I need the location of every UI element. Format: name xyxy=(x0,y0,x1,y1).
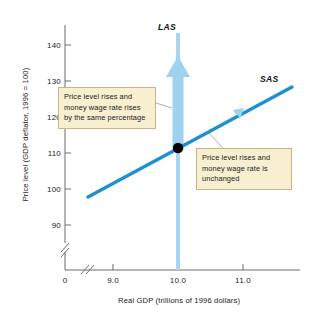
y-tick-140: 140 xyxy=(37,41,61,50)
x-tick-0: 0 xyxy=(50,276,80,285)
economics-as-chart: 140 130 120 110 100 90 0 9.0 10.0 11.0 P… xyxy=(0,0,310,316)
sas-callout-line-2: money wage rate is xyxy=(202,164,286,175)
equilibrium-point xyxy=(173,143,183,153)
y-axis-ticks xyxy=(65,45,71,225)
las-callout-line-2: money wage rate rises xyxy=(64,103,150,114)
sas-callout-line-3: unchanged xyxy=(202,174,286,185)
y-tick-130: 130 xyxy=(37,77,61,86)
las-curve-label: LAS xyxy=(158,22,176,32)
sas-curve-label: SAS xyxy=(260,74,279,84)
las-shift-arrow-icon xyxy=(166,56,190,150)
y-tick-110: 110 xyxy=(37,149,61,158)
y-axis-title: Price level (GDP deflator, 1996 = 100) xyxy=(21,50,30,220)
las-callout-line-1: Price level rises and xyxy=(64,92,150,103)
x-tick-9: 9.0 xyxy=(98,276,128,285)
sas-shift-arrow-icon xyxy=(205,104,256,132)
y-tick-100: 100 xyxy=(37,185,61,194)
las-callout-line-3: by the same percentage xyxy=(64,113,150,124)
sas-callout-box: Price level rises and money wage rate is… xyxy=(196,148,292,190)
las-callout-leader xyxy=(156,103,172,108)
x-tick-10: 10.0 xyxy=(163,276,193,285)
x-axis-title: Real GDP (trillions of 1996 dollars) xyxy=(118,296,240,305)
sas-callout-leader xyxy=(209,133,223,148)
las-callout-box: Price level rises and money wage rate ri… xyxy=(58,87,156,129)
x-tick-11: 11.0 xyxy=(228,276,258,285)
sas-callout-line-1: Price level rises and xyxy=(202,153,286,164)
y-tick-90: 90 xyxy=(37,221,61,230)
